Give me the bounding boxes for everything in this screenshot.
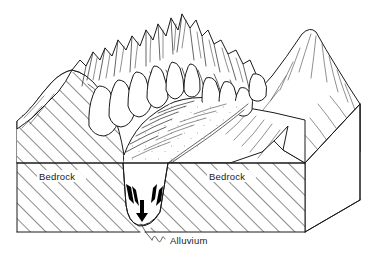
alluvium-label: Alluvium xyxy=(170,235,208,246)
block-diagram-figure: Bedrock Bedrock Alluvium xyxy=(0,0,379,258)
diagram-canvas: Bedrock Bedrock Alluvium xyxy=(0,0,379,258)
bedrock-right-label: Bedrock xyxy=(209,171,245,182)
bedrock-left-label: Bedrock xyxy=(39,171,75,182)
